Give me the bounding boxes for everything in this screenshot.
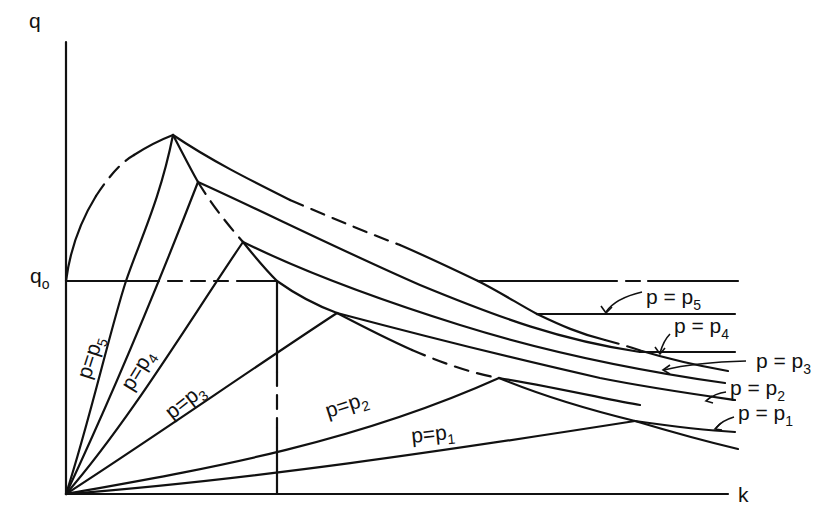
curve-p4 bbox=[66, 182, 198, 494]
arrow-p4 bbox=[660, 334, 670, 353]
envelope-arc bbox=[66, 196, 96, 281]
q-k-diagram: q k qo bbox=[0, 0, 840, 528]
label-p3-right: p = p3 bbox=[756, 349, 811, 377]
label-p4-right: p = p4 bbox=[674, 314, 729, 342]
label-p3-ray: p=p3 bbox=[160, 378, 211, 426]
label-p5-right: p = p5 bbox=[646, 285, 701, 313]
label-p1-right: p = p1 bbox=[738, 401, 793, 429]
arrow-p5 bbox=[606, 292, 642, 312]
label-p2-right: p = p2 bbox=[730, 376, 785, 404]
q-axis-label: q bbox=[29, 9, 41, 32]
curve-p5 bbox=[66, 135, 173, 494]
label-p2-ray: p=p2 bbox=[322, 386, 372, 425]
label-p1-ray: p=p1 bbox=[410, 420, 456, 451]
q0-label: qo bbox=[30, 264, 50, 292]
label-p4-ray: p=p4 bbox=[116, 345, 162, 396]
k-axis-label: k bbox=[738, 483, 749, 506]
